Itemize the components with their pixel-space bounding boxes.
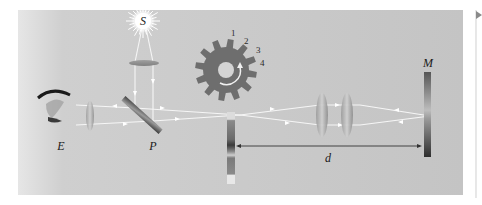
fizeau-diagram: S E P 1 2 3 4 M d (0, 0, 482, 205)
label-plate: P (148, 139, 157, 153)
label-distance: d (325, 151, 332, 165)
label-eye: E (56, 139, 65, 153)
condenser-lens (129, 60, 159, 66)
tooth-number-1: 1 (231, 28, 236, 38)
label-source: S (140, 14, 146, 28)
tooth-number-3: 3 (256, 45, 261, 55)
tooth-number-2: 2 (244, 36, 249, 46)
label-mirror: M (422, 56, 434, 70)
wheel-section-strip (227, 112, 235, 184)
collimating-lens-1 (316, 93, 328, 137)
collimating-lens-2 (341, 93, 353, 137)
tooth-number-4: 4 (260, 58, 265, 68)
diagram-panel (18, 10, 463, 195)
page-triangle-icon (476, 11, 482, 19)
eyepiece-lens (86, 101, 94, 131)
wheel-hub (218, 62, 234, 78)
